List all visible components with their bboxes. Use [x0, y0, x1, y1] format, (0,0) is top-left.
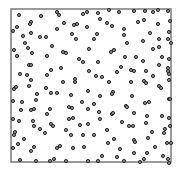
data-point — [64, 51, 67, 54]
data-point — [34, 98, 37, 101]
data-point — [95, 32, 98, 35]
data-point — [136, 20, 139, 23]
data-point — [97, 110, 100, 113]
data-point — [145, 114, 148, 117]
data-point — [29, 31, 32, 34]
data-point — [30, 51, 33, 54]
data-point — [119, 65, 122, 68]
data-point — [39, 14, 42, 17]
data-point — [123, 55, 126, 58]
data-point — [100, 154, 103, 157]
data-point — [29, 78, 32, 81]
data-point — [166, 37, 169, 40]
data-point — [61, 80, 64, 83]
data-point — [117, 10, 120, 13]
data-point — [38, 127, 41, 130]
data-point — [18, 158, 21, 161]
data-point — [156, 22, 159, 25]
data-point — [110, 24, 113, 27]
data-point — [21, 34, 24, 37]
data-point — [15, 25, 18, 28]
data-point — [20, 100, 23, 103]
data-point — [45, 112, 48, 115]
data-point — [157, 45, 160, 48]
data-point — [85, 25, 88, 28]
data-point — [11, 146, 14, 149]
data-point — [28, 22, 31, 25]
data-point — [92, 102, 95, 105]
data-point — [112, 48, 115, 51]
data-point — [14, 85, 17, 88]
data-point — [23, 41, 26, 44]
data-point — [169, 141, 172, 144]
data-point — [81, 133, 84, 136]
data-point — [87, 47, 90, 50]
data-point — [167, 72, 170, 75]
data-point — [62, 21, 65, 24]
data-point — [29, 63, 32, 66]
data-point — [161, 154, 164, 157]
data-point — [120, 120, 123, 123]
data-point — [26, 46, 29, 49]
data-point — [143, 101, 146, 104]
data-point — [132, 69, 135, 72]
data-point — [31, 119, 34, 122]
data-point — [55, 146, 58, 149]
data-point — [141, 59, 144, 62]
data-point — [153, 145, 156, 148]
data-point — [80, 100, 83, 103]
data-point — [87, 69, 90, 72]
data-point — [25, 73, 28, 76]
data-point — [71, 116, 74, 119]
data-point — [167, 161, 170, 164]
data-point — [98, 117, 101, 120]
data-point — [98, 17, 101, 20]
data-point — [96, 159, 99, 162]
data-point — [12, 133, 15, 136]
data-point — [98, 94, 101, 97]
data-point — [105, 128, 108, 131]
data-point — [167, 78, 170, 81]
data-point — [168, 19, 171, 22]
data-point — [151, 47, 154, 50]
scatter-plot — [0, 0, 180, 170]
data-point — [118, 147, 121, 150]
data-point — [151, 10, 154, 13]
data-point — [50, 44, 53, 47]
data-point — [132, 9, 135, 12]
data-point — [144, 69, 147, 72]
data-point — [77, 57, 80, 60]
data-point — [157, 63, 160, 66]
data-point — [81, 12, 84, 15]
data-point — [34, 159, 37, 162]
data-point — [32, 145, 35, 148]
data-point — [92, 37, 95, 40]
data-point — [45, 73, 48, 76]
data-point — [69, 93, 72, 96]
data-point — [122, 33, 125, 36]
data-point — [67, 117, 70, 120]
data-point — [71, 146, 74, 149]
data-point — [17, 119, 20, 122]
data-point — [29, 149, 32, 152]
data-point — [147, 100, 150, 103]
data-point — [11, 117, 14, 120]
data-point — [131, 124, 134, 127]
data-point — [134, 55, 137, 58]
data-point — [144, 121, 147, 124]
data-point — [86, 107, 89, 110]
data-point — [163, 127, 166, 130]
data-point — [148, 31, 151, 34]
data-point — [122, 27, 125, 30]
data-point — [167, 116, 170, 119]
data-point — [49, 68, 52, 71]
data-point — [35, 92, 38, 95]
data-point — [43, 131, 46, 134]
data-point — [86, 159, 89, 162]
data-point — [115, 70, 118, 73]
data-point — [133, 140, 136, 143]
data-point — [64, 128, 67, 131]
data-point — [27, 84, 30, 87]
data-point — [82, 145, 85, 148]
data-point — [22, 137, 25, 140]
